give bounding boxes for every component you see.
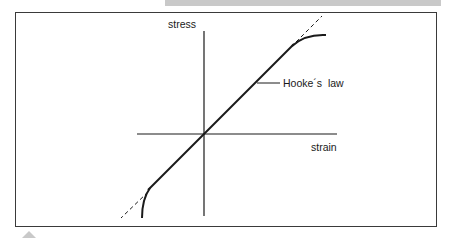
hookes-law-extrapolation-upper: [296, 16, 322, 42]
stress-strain-diagram: stress strain Hooke´s law: [0, 0, 450, 238]
hookes-law-label: Hooke´s law: [283, 77, 344, 89]
strain-axis-label: strain: [311, 141, 337, 153]
hookes-law-line: [148, 44, 294, 190]
stress-axis-label: stress: [168, 18, 196, 30]
stress-strain-curve-lower: [142, 188, 150, 218]
